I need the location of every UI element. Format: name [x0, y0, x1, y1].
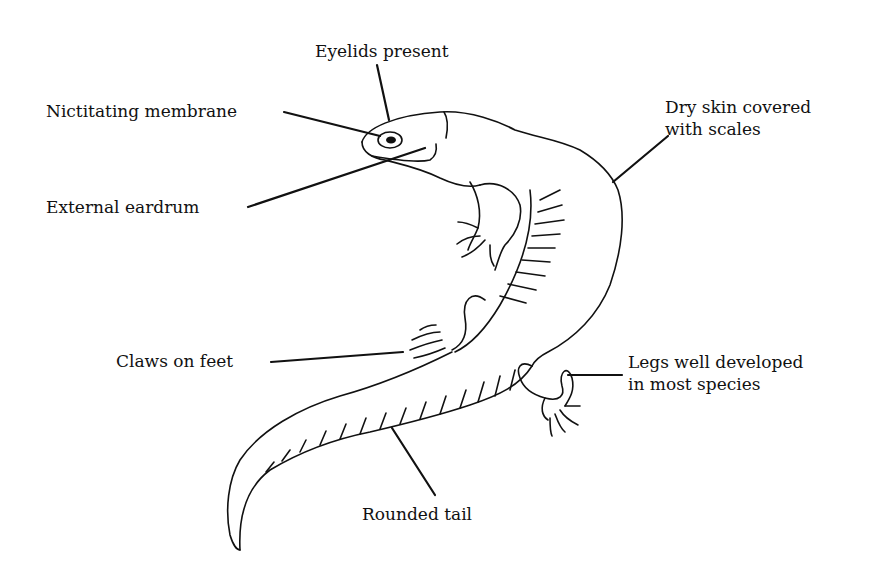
label-legs-line2: in most species [628, 373, 761, 395]
leader-skin [613, 136, 668, 182]
leader-nictitating [284, 112, 380, 136]
label-nictitating-membrane: Nictitating membrane [46, 100, 237, 122]
label-external-eardrum: External eardrum [46, 196, 199, 218]
label-dry-skin-line1: Dry skin covered [665, 96, 811, 118]
leader-claws [271, 352, 403, 362]
lizard-body-outline [228, 112, 622, 550]
label-claws-on-feet: Claws on feet [116, 350, 233, 372]
leader-tail [392, 428, 435, 495]
lizard-illustration [0, 0, 893, 578]
label-rounded-tail: Rounded tail [362, 503, 472, 525]
leader-eardrum [248, 148, 425, 207]
leader-lines [248, 65, 668, 495]
leader-eyelids [377, 65, 389, 120]
tail-scale-ticks [266, 370, 515, 472]
label-dry-skin-line2: with scales [665, 118, 761, 140]
lizard-diagram: Eyelids present Nictitating membrane Ext… [0, 0, 893, 578]
label-eyelids: Eyelids present [315, 40, 449, 62]
label-legs-line1: Legs well developed [628, 351, 803, 373]
